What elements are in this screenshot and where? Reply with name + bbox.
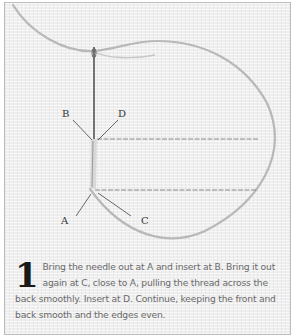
label-b: B bbox=[62, 108, 69, 119]
step-number: 1 bbox=[15, 261, 38, 289]
label-c: C bbox=[141, 215, 149, 226]
step-caption: 1 Bring the needle out at A and insert a… bbox=[15, 259, 281, 323]
label-d: D bbox=[118, 108, 126, 119]
label-a: A bbox=[61, 215, 68, 226]
instruction-card: B D A C 1 Bring the needle out at A and … bbox=[4, 2, 291, 335]
thread-icon bbox=[13, 5, 275, 238]
step-text: Bring the needle out at A and insert at … bbox=[15, 261, 276, 320]
